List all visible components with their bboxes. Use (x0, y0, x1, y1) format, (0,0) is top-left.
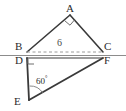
vertex-label-d: D (15, 55, 23, 66)
right-angle-mark-d (28, 59, 34, 65)
vertex-label-b: B (15, 41, 22, 52)
vertex-label-e: E (14, 96, 21, 107)
vertex-label-a: A (66, 3, 74, 14)
segment-ba (27, 15, 70, 52)
angle-label-e: 60° (36, 75, 47, 86)
angle-arc-e (30, 86, 43, 93)
vertex-label-c: C (104, 41, 111, 52)
angle-value-e: 60 (36, 76, 45, 86)
segment-length-label-bc: 6 (57, 38, 62, 48)
degree-symbol-icon: ° (45, 75, 47, 81)
vertex-label-f: F (104, 55, 110, 66)
geometry-figure: A B C D E F 6 60° (0, 0, 126, 111)
segment-ac (70, 15, 103, 52)
right-angle-mark-a (65, 20, 75, 25)
